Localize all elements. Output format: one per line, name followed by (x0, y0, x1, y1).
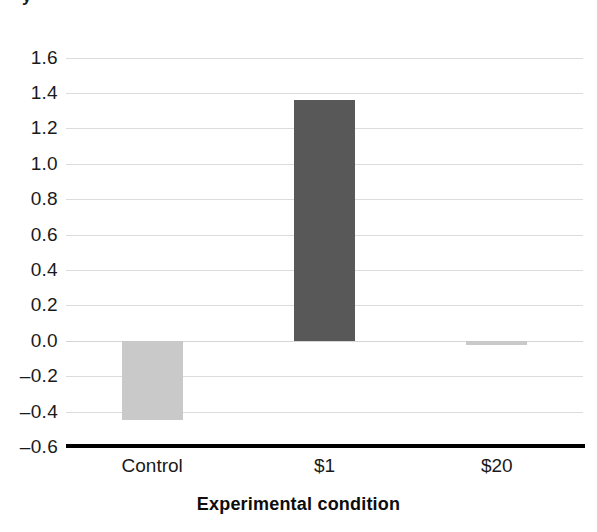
cropped-y-axis-title: y (22, 0, 32, 7)
bar-chart-figure: y 1.61.41.21.00.80.60.40.20.0–0.2–0.4–0.… (0, 0, 597, 532)
x-axis-title: Experimental condition (0, 494, 597, 515)
y-axis-tick-label: 1.2 (0, 117, 58, 139)
y-axis-tick-label: 0.6 (0, 224, 58, 246)
x-axis-line (66, 444, 585, 448)
x-axis-tick-labels: Control$1$20 (66, 455, 583, 485)
y-axis-tick-label: 1.6 (0, 47, 58, 69)
y-axis-tick-label: 1.0 (0, 153, 58, 175)
x-axis-tick-label: $20 (481, 455, 513, 477)
y-axis-tick-label: 0.0 (0, 330, 58, 352)
y-axis-tick-label: –0.6 (0, 436, 58, 458)
gridline (66, 58, 583, 59)
x-axis-tick-label: Control (122, 455, 183, 477)
y-axis-tick-label: –0.2 (0, 365, 58, 387)
bar-20 (466, 341, 527, 345)
bar-1 (294, 100, 355, 341)
y-axis-tick-label: 0.8 (0, 188, 58, 210)
y-axis-tick-label: 0.4 (0, 259, 58, 281)
bar-control (122, 341, 183, 421)
y-axis-tick-label: 1.4 (0, 82, 58, 104)
y-axis-tick-label: –0.4 (0, 401, 58, 423)
x-axis-tick-label: $1 (314, 455, 335, 477)
plot-area (66, 40, 583, 447)
gridline (66, 93, 583, 94)
y-axis-tick-label: 0.2 (0, 294, 58, 316)
y-axis-tick-labels: 1.61.41.21.00.80.60.40.20.0–0.2–0.4–0.6 (0, 40, 58, 447)
